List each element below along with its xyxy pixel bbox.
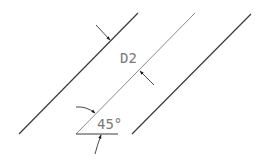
right-parallel-line xyxy=(132,14,251,134)
d2-arrow-bottom xyxy=(140,71,154,85)
d2-arrow-top xyxy=(96,25,110,40)
middle-parallel-line xyxy=(76,13,195,134)
d2-label: D2 xyxy=(120,50,137,66)
angle-arrow-upper xyxy=(76,107,95,113)
angle-label: 45° xyxy=(97,116,122,132)
technical-drawing: D2 45° xyxy=(0,0,263,162)
angle-arrow-lower xyxy=(95,135,101,154)
